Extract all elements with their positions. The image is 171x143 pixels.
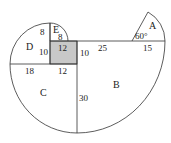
label-region-a: A — [149, 20, 157, 31]
label-c-top-right: 12 — [58, 66, 67, 76]
label-e-radius: 8 — [58, 32, 63, 42]
label-d-top: 8 — [40, 27, 45, 37]
label-region-b: B — [113, 79, 120, 90]
label-region-d: D — [26, 41, 33, 52]
label-b-top: 25 — [98, 43, 108, 53]
label-square-top: 12 — [58, 43, 67, 53]
geometry-diagram: A B C D E 60° 8 8 10 12 10 25 15 18 12 3… — [0, 0, 171, 143]
label-square-side: 10 — [80, 48, 90, 58]
sector-b — [77, 41, 165, 133]
label-c-top-left: 18 — [25, 66, 35, 76]
label-region-c: C — [40, 87, 47, 98]
label-b-side: 30 — [79, 93, 89, 103]
label-a-base: 15 — [143, 43, 153, 53]
label-d-side: 10 — [39, 47, 49, 57]
label-angle-60: 60° — [135, 31, 148, 41]
